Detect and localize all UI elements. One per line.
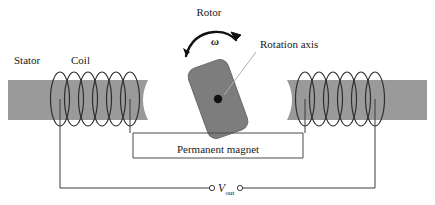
- permanent-magnet-label: Permanent magnet: [177, 143, 259, 155]
- stator-label: Stator: [14, 54, 41, 66]
- v-out-subscript: out: [226, 189, 235, 197]
- output-terminal-left: [209, 185, 214, 190]
- rotation-axis-dot: [214, 95, 222, 103]
- omega-label: ω: [211, 35, 219, 47]
- output-terminal-right: [237, 185, 242, 190]
- generator-diagram: Stator Coil Rotor ω Rotation axis Perman…: [0, 0, 435, 205]
- coil-label: Coil: [71, 54, 90, 66]
- rotor-label: Rotor: [196, 6, 221, 18]
- diagram-canvas: Stator Coil Rotor ω Rotation axis Perman…: [0, 0, 435, 205]
- v-out-label: Vout: [218, 182, 235, 197]
- rotation-axis-label: Rotation axis: [260, 38, 318, 50]
